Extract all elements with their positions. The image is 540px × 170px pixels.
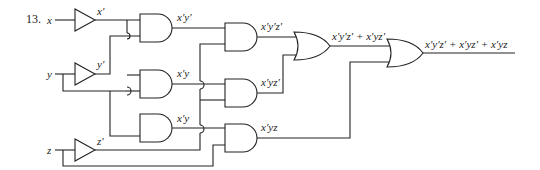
logic-circuit-diagram: 13. x y z x′ y′ z′	[0, 0, 540, 170]
input-z-label: z	[46, 144, 52, 156]
inverter-x	[55, 9, 95, 31]
and2-output-label: x′y	[176, 67, 189, 79]
and4-output-label: x′y′z′	[260, 20, 283, 32]
and1-output-label: x′y′	[176, 11, 192, 23]
input-y-label: y	[46, 68, 52, 80]
final-output-label: x′y′z′ + x′yz′ + x′yz	[424, 38, 508, 50]
and5-output-label: x′yz′	[260, 76, 280, 88]
input-x-label: x	[46, 14, 52, 26]
y-not-label: y′	[96, 58, 105, 70]
inverter-y	[55, 63, 125, 91]
and3-output-label: x′y	[176, 112, 189, 124]
y-wire	[110, 91, 140, 136]
or1-output-label: x′y′z′ + x′yz′	[331, 30, 386, 42]
and6-output-label: x′yz	[260, 121, 278, 133]
x-not-label: x′	[96, 5, 105, 17]
z-not-label: z′	[96, 135, 104, 147]
problem-number: 13.	[26, 12, 41, 26]
and-gate-6	[225, 62, 390, 152]
